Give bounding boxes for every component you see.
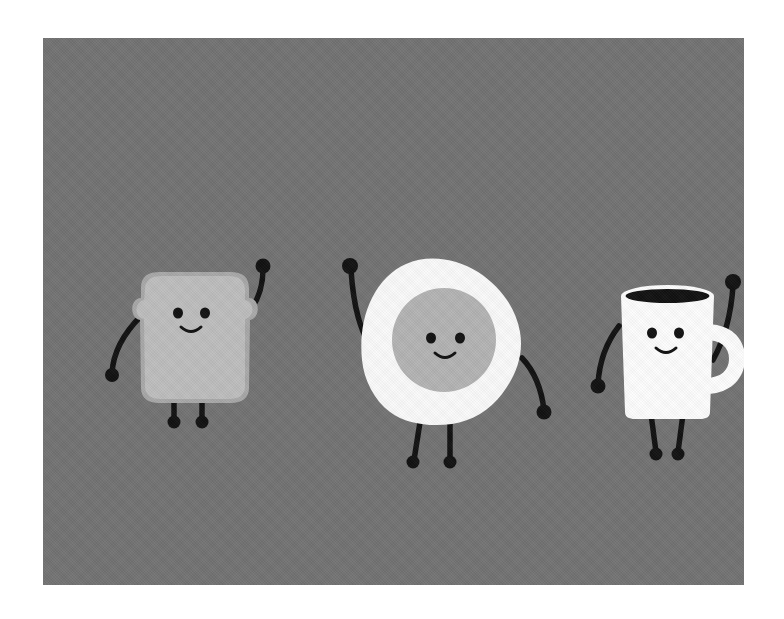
mug-left-arm bbox=[591, 326, 620, 394]
character-fried-egg: fried egg bbox=[278, 228, 528, 488]
mug-legs bbox=[650, 414, 685, 461]
mug-body bbox=[621, 296, 714, 419]
character-coffee-mug: coffee mug bbox=[533, 228, 744, 488]
toast-right-eye bbox=[200, 308, 210, 319]
mug-left-eye bbox=[647, 328, 657, 339]
artwork-canvas: toast bbox=[43, 38, 744, 585]
toast-left-eye bbox=[173, 308, 183, 319]
toast-left-arm bbox=[105, 316, 141, 382]
egg-right-eye bbox=[455, 333, 465, 344]
illustration-stage: toast bbox=[0, 0, 784, 619]
toast-body bbox=[137, 276, 253, 399]
mug-right-eye bbox=[674, 328, 684, 339]
egg-yolk bbox=[392, 288, 496, 392]
mug-coffee-surface bbox=[626, 289, 710, 303]
character-toast: toast bbox=[63, 228, 293, 488]
egg-left-eye bbox=[426, 333, 436, 344]
